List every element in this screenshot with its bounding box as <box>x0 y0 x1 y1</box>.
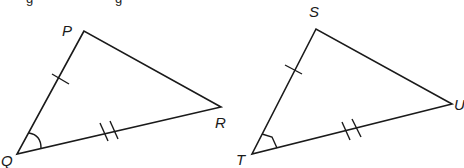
tick-qr-2 <box>110 121 118 139</box>
vertex-label-u: U <box>454 96 464 113</box>
top-text-fragment-2: g <box>115 0 122 6</box>
vertex-label-t: T <box>236 151 247 168</box>
vertex-label-s: S <box>309 3 319 20</box>
triangle-pqr: P Q R <box>1 22 226 168</box>
triangle-stu-outline <box>252 29 452 154</box>
top-text-fragment-1: g <box>26 0 33 6</box>
vertex-label-r: R <box>215 114 226 131</box>
vertex-label-q: Q <box>1 152 13 168</box>
triangle-stu: S T U <box>236 3 464 168</box>
angle-arc-t <box>262 134 277 148</box>
tick-qr-1 <box>100 123 108 141</box>
congruent-triangles-diagram: g g P Q R S T U <box>0 0 464 168</box>
triangle-pqr-outline <box>17 31 221 154</box>
angle-arc-q <box>29 133 41 148</box>
vertex-label-p: P <box>62 22 72 39</box>
